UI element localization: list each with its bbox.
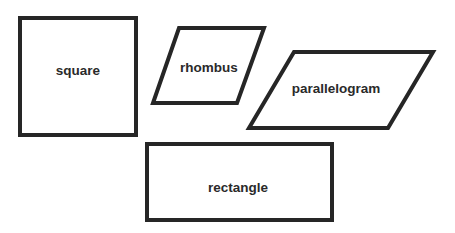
- shapes-layer: [0, 0, 455, 233]
- rectangle-label: rectangle: [208, 180, 268, 195]
- square-label: square: [56, 63, 100, 78]
- quadrilaterals-diagram: square rhombus parallelogram rectangle: [0, 0, 455, 233]
- parallelogram-label: parallelogram: [292, 81, 381, 96]
- rhombus-label: rhombus: [180, 60, 238, 75]
